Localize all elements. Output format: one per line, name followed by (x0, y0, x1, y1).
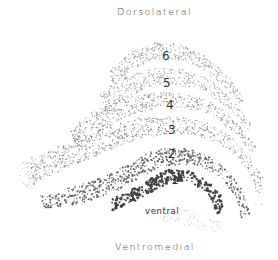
dorsolateral-label: Dorsolateral (117, 6, 192, 17)
layer-2-label: 2 (168, 147, 176, 161)
ventral-label: ventral (145, 206, 179, 216)
layer-4-label: 4 (166, 98, 174, 112)
layered-tissue-diagram (0, 0, 278, 260)
layer-6-label: 6 (162, 49, 170, 63)
stippled-layer-bands (18, 42, 263, 232)
layer-3-label: 3 (168, 123, 176, 137)
layer-5-label: 5 (163, 76, 171, 90)
layer-6-band (110, 42, 244, 104)
ventromedial-label: Ventromedial (115, 241, 195, 252)
layer-4-band (71, 92, 256, 152)
layer-1-label: 1 (171, 173, 179, 187)
